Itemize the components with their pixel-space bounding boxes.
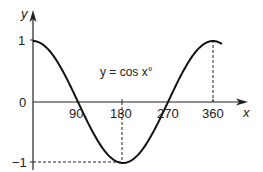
x-axis-label: x xyxy=(242,105,250,120)
y-tick-label-0: 0 xyxy=(19,95,26,110)
equation-label: y = cos x° xyxy=(100,65,153,79)
y-tick-label-minus-1: −1 xyxy=(12,155,27,170)
x-tick-label-360: 360 xyxy=(202,106,224,121)
cosine-graph: y x 1 0 −1 90 180 270 360 y = cos x° xyxy=(0,0,263,172)
x-tick-label-180: 180 xyxy=(110,106,132,121)
y-tick-label-1: 1 xyxy=(18,33,25,48)
y-axis-label: y xyxy=(20,6,29,21)
x-tick-label-90: 90 xyxy=(69,106,83,121)
x-tick-label-270: 270 xyxy=(157,106,179,121)
